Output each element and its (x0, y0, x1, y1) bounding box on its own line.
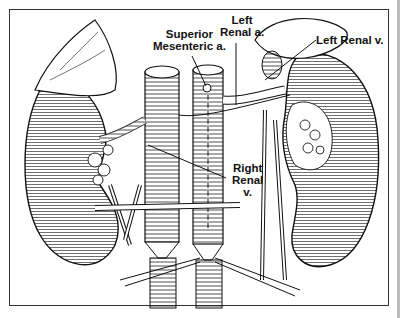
label-line: Left Renal v. (316, 34, 384, 46)
label-line: Renal a. (220, 26, 264, 38)
left-kidney (255, 19, 379, 267)
label-line: Right (232, 162, 263, 174)
label-line: Left (220, 14, 264, 26)
label-right-renal-vein: Right Renal v. (232, 162, 263, 198)
label-line: Renal (232, 174, 263, 186)
aorta (193, 65, 223, 308)
label-line: Superior (153, 28, 226, 40)
label-left-renal-artery: Left Renal a. (220, 14, 264, 38)
label-superior-mesenteric-artery: Superior Mesenteric a. (153, 28, 226, 52)
label-left-renal-vein: Left Renal v. (316, 34, 384, 46)
label-line: v. (232, 186, 263, 198)
label-line: Mesenteric a. (153, 40, 226, 52)
